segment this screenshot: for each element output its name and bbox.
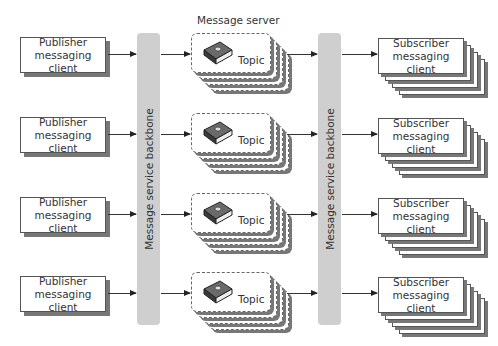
subscriber-line1: Subscriber	[379, 197, 463, 210]
topic-box: Topic	[191, 113, 271, 153]
arrow-publisher-to-backbone	[108, 54, 136, 55]
arrow-backbone-to-subscriber	[342, 293, 377, 294]
subscriber-line2: messaging client	[379, 289, 463, 315]
topic-label: Topic	[238, 214, 264, 226]
publisher-client-box: Publishermessaging client	[20, 276, 106, 312]
arrow-topic-to-backbone	[287, 134, 317, 135]
publisher-line1: Publisher	[21, 36, 105, 49]
arrow-backbone-to-subscriber	[342, 54, 377, 55]
arrow-topic-to-backbone	[287, 293, 317, 294]
diagram-row: Publishermessaging client Topic Subscrib…	[0, 80, 498, 160]
publisher-line2: messaging client	[21, 288, 105, 314]
book-icon	[200, 40, 234, 66]
diagram-row: Publishermessaging client Topic Subscrib…	[0, 0, 498, 80]
subscriber-line2: messaging client	[379, 50, 463, 76]
arrow-backbone-to-subscriber	[342, 134, 377, 135]
diagram-row: Publishermessaging client Topic Subscrib…	[0, 160, 498, 240]
topic-box: Topic	[191, 193, 271, 233]
book-icon	[200, 120, 234, 146]
arrow-backbone-to-topic	[161, 134, 190, 135]
diagram-row: Publishermessaging client Topic Subscrib…	[0, 239, 498, 319]
arrow-topic-to-backbone	[287, 54, 317, 55]
subscriber-line1: Subscriber	[379, 276, 463, 289]
publisher-client-box: Publishermessaging client	[20, 37, 106, 73]
arrow-topic-to-backbone	[287, 214, 317, 215]
subscriber-line1: Subscriber	[379, 37, 463, 50]
subscriber-line2: messaging client	[379, 210, 463, 236]
publisher-client-box: Publishermessaging client	[20, 117, 106, 153]
publisher-line1: Publisher	[21, 196, 105, 209]
topic-label: Topic	[238, 293, 264, 305]
arrow-publisher-to-backbone	[108, 293, 136, 294]
topic-box: Topic	[191, 272, 271, 312]
arrow-publisher-to-backbone	[108, 134, 136, 135]
arrow-publisher-to-backbone	[108, 214, 136, 215]
publisher-line2: messaging client	[21, 209, 105, 235]
book-icon	[200, 279, 234, 305]
subscriber-client-box: Subscribermessaging client	[378, 38, 464, 74]
subscriber-client-box: Subscribermessaging client	[378, 277, 464, 313]
subscriber-client-box: Subscribermessaging client	[378, 198, 464, 234]
topic-label: Topic	[238, 54, 264, 66]
subscriber-client-box: Subscribermessaging client	[378, 118, 464, 154]
arrow-backbone-to-topic	[161, 214, 190, 215]
publisher-line2: messaging client	[21, 49, 105, 75]
arrow-backbone-to-topic	[161, 293, 190, 294]
arrow-backbone-to-subscriber	[342, 214, 377, 215]
publisher-line1: Publisher	[21, 116, 105, 129]
subscriber-line2: messaging client	[379, 130, 463, 156]
arrow-backbone-to-topic	[161, 54, 190, 55]
publisher-line2: messaging client	[21, 129, 105, 155]
topic-box: Topic	[191, 33, 271, 73]
book-icon	[200, 200, 234, 226]
subscriber-line1: Subscriber	[379, 117, 463, 130]
publisher-line1: Publisher	[21, 275, 105, 288]
publisher-client-box: Publishermessaging client	[20, 197, 106, 233]
topic-label: Topic	[238, 134, 264, 146]
